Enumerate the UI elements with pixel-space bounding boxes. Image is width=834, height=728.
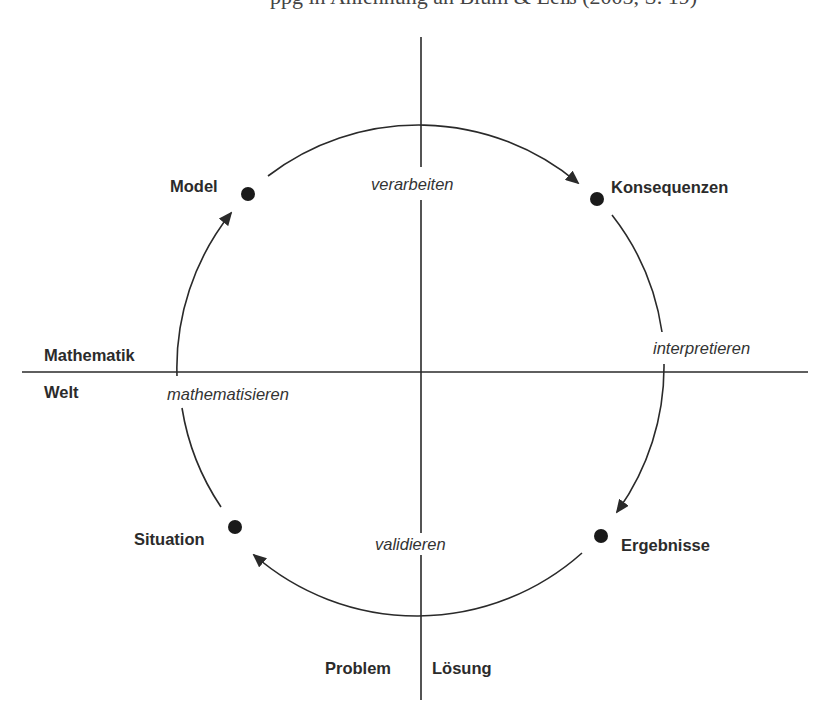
node-dot-situation [228,520,242,534]
node-label-model: Model [170,177,218,195]
cutoff-caption: ppg in Anlehnung an Blum & Leiß (2005, S… [270,0,697,9]
arc-interpretieren-lower [617,364,664,512]
arc-mathematisieren-lower [182,408,221,507]
node-dot-model [241,187,255,201]
node-label-konsequenzen: Konsequenzen [611,178,728,196]
arc-interpretieren-upper [612,215,662,332]
node-label-ergebnisse: Ergebnisse [621,536,710,554]
axis-label-welt: Welt [44,383,79,401]
node-label-situation: Situation [134,530,205,548]
transition-label-interpretieren: interpretieren [653,339,750,357]
modeling-cycle-diagram: ppg in Anlehnung an Blum & Leiß (2005, S… [0,0,834,728]
arc-mathematisieren-upper [177,213,231,376]
transition-label-verarbeiten: verarbeiten [371,175,454,193]
node-dot-ergebnisse [594,529,608,543]
node-dot-konsequenzen [590,192,604,206]
transition-label-validieren: validieren [375,535,446,553]
axis-label-mathematik: Mathematik [44,346,136,364]
arc-validieren [254,553,582,616]
transition-label-mathematisieren: mathematisieren [167,385,289,403]
axis-label-problem: Problem [325,659,391,677]
axis-label-loesung: Lösung [432,659,492,677]
